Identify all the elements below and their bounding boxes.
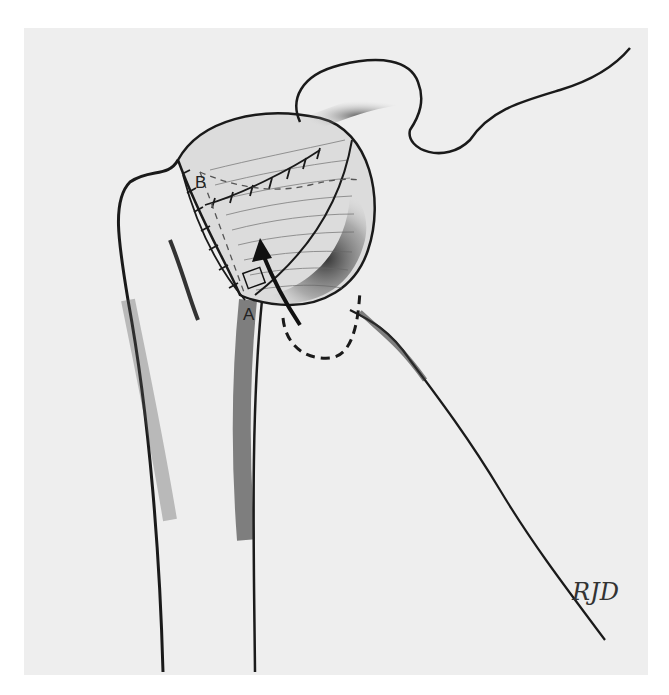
scapula-border [350, 310, 605, 640]
label-a: A [243, 305, 255, 324]
label-b: B [195, 173, 206, 192]
shoulder-illustration: B A RJD [0, 0, 669, 695]
artist-signature: RJD [571, 578, 619, 606]
humeral-head [178, 113, 375, 305]
